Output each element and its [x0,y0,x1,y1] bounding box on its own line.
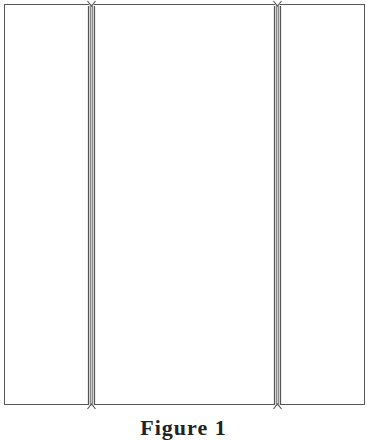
right-divider [273,0,282,410]
left-divider [87,0,96,410]
double-line-divider-icon [273,0,282,410]
diagram-frame [4,4,365,405]
figure-caption: Figure 1 [0,417,367,439]
double-line-divider-icon [87,0,96,410]
